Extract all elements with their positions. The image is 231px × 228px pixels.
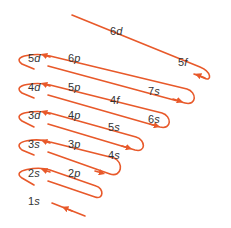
orbital-4f: 4f [110, 95, 119, 106]
orbital-7s: 7s [148, 86, 160, 97]
orbital-6s: 6s [148, 114, 160, 125]
path-5d-6p-7s [19, 55, 194, 104]
orbital-4d: 4d [28, 82, 40, 93]
orbital-3s: 3s [28, 139, 40, 150]
orbital-6d: 6d [110, 26, 122, 37]
orbital-5f: 5f [178, 57, 187, 68]
orbital-5p: 5p [68, 82, 80, 93]
orbital-1s: 1s [28, 196, 40, 207]
orbital-4p: 4p [68, 110, 80, 121]
path-6d-5f [72, 15, 210, 79]
orbital-3d: 3d [28, 110, 40, 121]
orbital-3p: 3p [68, 139, 80, 150]
arrow-1s [65, 208, 72, 211]
orbital-5d: 5d [28, 53, 40, 64]
orbital-2p: 2p [68, 168, 80, 179]
orbital-4s: 4s [108, 150, 120, 161]
orbital-6p: 6p [68, 53, 80, 64]
orbital-2s: 2s [28, 168, 40, 179]
orbital-5s: 5s [108, 122, 120, 133]
path-4d-5p-6s [19, 84, 169, 128]
